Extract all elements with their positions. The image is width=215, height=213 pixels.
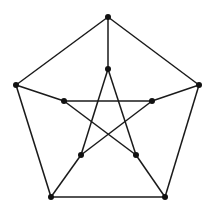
node-o4 — [13, 82, 19, 88]
edge-o1-i1 — [152, 85, 199, 101]
node-i2 — [133, 152, 139, 158]
node-o1 — [196, 82, 202, 88]
petersen-graph — [0, 0, 215, 213]
edge-i0-i2 — [108, 69, 136, 155]
edge-i1-i3 — [81, 101, 152, 155]
node-i0 — [105, 66, 111, 72]
edge-o2-i2 — [136, 155, 165, 197]
edge-i2-i4 — [64, 101, 136, 155]
edge-o1-o2 — [165, 85, 199, 197]
graph-edges — [16, 17, 199, 197]
node-i4 — [61, 98, 67, 104]
node-o0 — [105, 14, 111, 20]
edge-o0-o1 — [108, 17, 199, 85]
edge-o4-o0 — [16, 17, 108, 85]
edge-o4-i4 — [16, 85, 64, 101]
edge-o3-o4 — [16, 85, 51, 197]
node-o2 — [162, 194, 168, 200]
node-i1 — [149, 98, 155, 104]
node-o3 — [48, 194, 54, 200]
node-i3 — [78, 152, 84, 158]
edge-i3-i0 — [81, 69, 108, 155]
edge-o3-i3 — [51, 155, 81, 197]
